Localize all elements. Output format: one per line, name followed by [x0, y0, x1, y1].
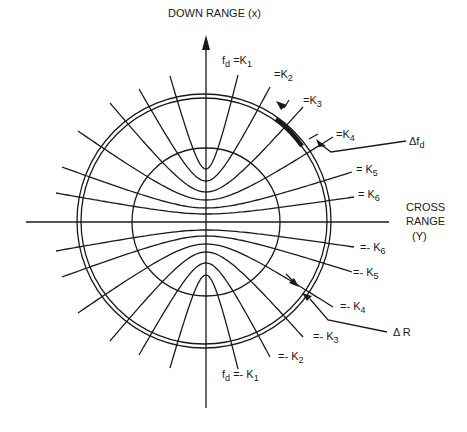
contour-label-neg-K6: =- K6 — [360, 241, 386, 256]
contour-label-neg-K4: =- K4 — [340, 300, 366, 315]
delta-fd-arrow-upper-icon — [276, 101, 287, 110]
contour-label-K4: =K4 — [336, 128, 355, 143]
svg-text:=- K6: =- K6 — [360, 241, 386, 256]
svg-text:=- K3: =- K3 — [313, 330, 339, 345]
cross-range-label-line3: (Y) — [412, 230, 427, 242]
svg-text:Δfd: Δfd — [409, 135, 424, 150]
contour-label-K1: fd =K1 — [222, 54, 252, 69]
svg-text:=- K5: =- K5 — [353, 266, 379, 281]
delta-fd-tick-lower — [309, 134, 318, 139]
iso-doppler-curve-neg-K1 — [170, 275, 238, 369]
down-range-arrow-icon — [202, 35, 210, 50]
down-range-label: DOWN RANGE (x) — [168, 7, 261, 19]
svg-text:fd =K1: fd =K1 — [222, 54, 252, 69]
svg-text:= K6: = K6 — [358, 188, 380, 203]
delta-fd-label: Δfd — [409, 135, 424, 150]
svg-text:=K4: =K4 — [336, 128, 355, 143]
svg-text:=- K2: =- K2 — [278, 350, 304, 365]
contour-label-K3: =K3 — [303, 94, 322, 109]
inner-range-ring — [81, 98, 327, 344]
iso-doppler-curve-neg-K2 — [139, 263, 270, 357]
contour-label-K2: =K2 — [274, 68, 293, 83]
contour-label-neg-K2: =- K2 — [278, 350, 304, 365]
delta-fd-leader — [323, 141, 406, 152]
contour-label-neg-K1: fd =- K1 — [222, 368, 259, 383]
delta-r-label: Δ R — [393, 326, 411, 338]
contour-label-neg-K5: =- K5 — [353, 266, 379, 281]
iso-doppler-curve-K6 — [56, 193, 354, 214]
svg-text:=K3: =K3 — [303, 94, 322, 109]
svg-text:=- K4: =- K4 — [340, 300, 366, 315]
contour-label-K5: = K5 — [356, 163, 378, 178]
iso-doppler-curve-K2 — [139, 87, 270, 181]
iso-doppler-curve-neg-K6 — [56, 230, 354, 251]
contour-label-neg-K3: =- K3 — [313, 330, 339, 345]
svg-text:fd =- K1: fd =- K1 — [222, 368, 259, 383]
diagram-canvas: DOWN RANGE (x) fd =K1 =K2 =K3 =K4 = K5 =… — [0, 0, 467, 432]
contour-label-K6: = K6 — [358, 188, 380, 203]
cross-range-label-line2: RANGE — [406, 215, 445, 227]
cross-range-label-line1: CROSS — [406, 201, 445, 213]
svg-text:=K2: =K2 — [274, 68, 293, 83]
iso-doppler-curve-K1 — [170, 75, 238, 169]
svg-text:= K5: = K5 — [356, 163, 378, 178]
